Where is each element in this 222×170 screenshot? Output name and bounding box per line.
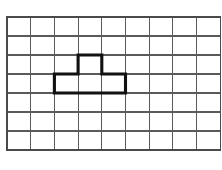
screenshot-root	[0, 0, 222, 170]
grid-canvas	[0, 0, 222, 170]
grid-figure	[0, 0, 222, 170]
canvas-background	[0, 0, 222, 170]
